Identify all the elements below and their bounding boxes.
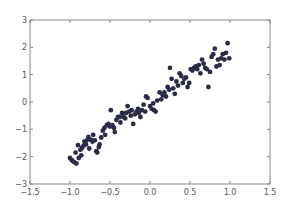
data-point [172, 91, 177, 96]
data-point [176, 83, 181, 88]
data-point [138, 115, 143, 120]
data-point [84, 142, 89, 147]
data-point [196, 63, 201, 68]
y-tick-label: 0 [22, 98, 27, 107]
data-point [162, 90, 167, 95]
data-point [151, 101, 156, 106]
data-point [125, 104, 130, 109]
data-point [145, 96, 150, 101]
x-tick-label: −1.0 [60, 188, 79, 197]
x-tick-label: −0.5 [100, 188, 119, 197]
x-tick-label: 1.5 [264, 188, 277, 197]
data-point [168, 65, 173, 70]
data-point [159, 97, 164, 102]
data-point [227, 56, 232, 61]
plot-area [30, 20, 270, 184]
data-point [141, 102, 146, 107]
data-point [95, 150, 100, 155]
data-point [171, 86, 176, 91]
data-point [108, 108, 113, 113]
data-point [184, 75, 189, 80]
y-axis-tick-labels: −3−2−10123 [15, 16, 27, 189]
data-point [212, 46, 217, 51]
x-tick-label: 0.5 [184, 188, 197, 197]
x-tick-label: 1.0 [224, 188, 237, 197]
x-tick-label: 0.0 [144, 188, 157, 197]
data-point [222, 57, 227, 62]
data-point [211, 52, 216, 57]
data-point [164, 94, 169, 99]
data-point [200, 57, 205, 62]
data-point [169, 76, 174, 81]
data-point [187, 81, 192, 86]
data-point [87, 146, 92, 151]
y-tick-label: −2 [15, 153, 27, 162]
x-axis-tick-labels: −1.5−1.0−0.50.00.51.01.5 [20, 188, 276, 197]
data-point [103, 132, 108, 137]
data-point [217, 63, 222, 68]
data-point [112, 126, 117, 131]
y-tick-label: 1 [22, 71, 27, 80]
data-point [91, 132, 96, 137]
data-point [143, 109, 148, 114]
data-point [208, 70, 213, 75]
data-point [185, 85, 190, 90]
data-point [99, 135, 104, 140]
data-point [195, 67, 200, 72]
data-point [198, 71, 203, 76]
data-point [174, 79, 179, 84]
data-point [129, 108, 134, 113]
y-tick-label: 2 [22, 43, 27, 52]
data-point [201, 61, 206, 66]
data-point [74, 161, 79, 166]
data-point [123, 116, 128, 121]
x-tick-label: −1.5 [20, 188, 39, 197]
y-tick-label: −1 [15, 125, 27, 134]
data-point [131, 122, 136, 127]
data-point [112, 130, 117, 135]
data-point [73, 150, 78, 155]
data-point [92, 138, 97, 143]
data-point [180, 81, 185, 86]
data-point [153, 109, 158, 114]
data-point [224, 50, 229, 55]
y-tick-label: −3 [15, 180, 27, 189]
data-point [76, 143, 81, 148]
data-point [118, 120, 123, 125]
data-point [206, 85, 211, 90]
data-point [225, 41, 230, 46]
data-point [79, 153, 84, 158]
scatter-chart: −1.5−1.0−0.50.00.51.01.5 −3−2−10123 [0, 0, 289, 206]
y-tick-label: 3 [22, 16, 27, 25]
data-point [97, 142, 102, 147]
